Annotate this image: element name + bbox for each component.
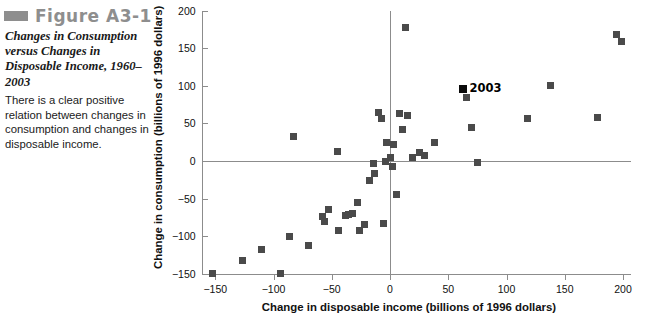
y-tick bbox=[202, 236, 208, 237]
data-point bbox=[258, 246, 265, 253]
x-tick-label: 150 bbox=[545, 283, 585, 295]
data-point bbox=[321, 218, 328, 225]
point-annotation-label: 2003 bbox=[469, 81, 501, 95]
data-point bbox=[474, 159, 481, 166]
x-tick bbox=[565, 274, 566, 280]
x-tick-label: −100 bbox=[254, 283, 294, 295]
caption-panel: Figure A3-1 Changes in Consumption versu… bbox=[0, 0, 158, 319]
x-tick-label: −150 bbox=[195, 283, 235, 295]
figure-marker-bar-icon bbox=[4, 11, 28, 21]
data-point bbox=[402, 24, 409, 31]
x-tick bbox=[332, 274, 333, 280]
y-tick bbox=[202, 199, 208, 200]
y-tick-label: 150 bbox=[162, 42, 196, 54]
data-point bbox=[366, 177, 373, 184]
data-point bbox=[524, 115, 531, 122]
x-axis-spine bbox=[202, 274, 631, 275]
data-point bbox=[618, 38, 625, 45]
data-point bbox=[325, 206, 332, 213]
data-point bbox=[594, 114, 601, 121]
y-tick-label: 0 bbox=[162, 155, 196, 167]
figure-header: Figure A3-1 bbox=[4, 6, 152, 26]
data-point bbox=[209, 270, 216, 277]
data-point-highlighted bbox=[459, 85, 467, 93]
zero-line-horizontal bbox=[202, 161, 631, 162]
data-point bbox=[349, 210, 356, 217]
y-tick bbox=[202, 123, 208, 124]
figure-description: There is a clear positive relation betwe… bbox=[5, 93, 156, 151]
data-point bbox=[387, 154, 394, 161]
data-point bbox=[421, 152, 428, 159]
x-tick bbox=[274, 274, 275, 280]
y-axis-spine bbox=[202, 11, 203, 274]
figure-title: Changes in Consumption versus Changes in… bbox=[5, 29, 155, 90]
data-point bbox=[396, 110, 403, 117]
data-point bbox=[383, 139, 390, 146]
y-tick bbox=[202, 11, 208, 12]
data-point bbox=[409, 154, 416, 161]
data-point bbox=[305, 242, 312, 249]
data-point bbox=[378, 115, 385, 122]
data-point bbox=[389, 163, 396, 170]
y-tick-label: −150 bbox=[162, 268, 196, 280]
data-point bbox=[361, 221, 368, 228]
y-tick-label: 100 bbox=[162, 80, 196, 92]
x-tick bbox=[448, 274, 449, 280]
y-axis-title: Change in consumption (billions of 1996 … bbox=[152, 5, 164, 268]
x-tick bbox=[390, 274, 391, 280]
y-tick-label: 200 bbox=[162, 5, 196, 17]
x-tick bbox=[623, 274, 624, 280]
y-tick bbox=[202, 48, 208, 49]
x-tick-label: 0 bbox=[370, 283, 410, 295]
y-tick bbox=[202, 161, 208, 162]
y-tick-label: 50 bbox=[162, 117, 196, 129]
data-point bbox=[380, 220, 387, 227]
data-point bbox=[393, 191, 400, 198]
x-tick-label: 100 bbox=[487, 283, 527, 295]
data-point bbox=[239, 257, 246, 264]
figure-root: Figure A3-1 Changes in Consumption versu… bbox=[0, 0, 660, 319]
data-point bbox=[547, 82, 554, 89]
y-tick bbox=[202, 86, 208, 87]
y-tick bbox=[202, 274, 208, 275]
data-point bbox=[290, 133, 297, 140]
data-point bbox=[335, 227, 342, 234]
data-point bbox=[399, 126, 406, 133]
x-axis-title: Change in disposable income (billions of… bbox=[158, 301, 660, 313]
x-tick bbox=[507, 274, 508, 280]
y-tick-label: −50 bbox=[162, 193, 196, 205]
x-tick-label: 50 bbox=[428, 283, 468, 295]
data-point bbox=[431, 139, 438, 146]
data-point bbox=[286, 233, 293, 240]
data-point bbox=[354, 199, 361, 206]
x-tick-label: 200 bbox=[603, 283, 643, 295]
data-point bbox=[370, 160, 377, 167]
data-point bbox=[277, 270, 284, 277]
chart-panel: −150−100−50050100150200−150−100−50050100… bbox=[158, 0, 660, 319]
data-point bbox=[390, 141, 397, 148]
data-point bbox=[404, 112, 411, 119]
y-tick-label: −100 bbox=[162, 230, 196, 242]
figure-number: Figure A3-1 bbox=[35, 6, 152, 26]
data-point bbox=[371, 170, 378, 177]
data-point bbox=[334, 148, 341, 155]
x-tick-label: −50 bbox=[312, 283, 352, 295]
scatter-plot: −150−100−50050100150200−150−100−50050100… bbox=[158, 0, 660, 319]
data-point bbox=[468, 124, 475, 131]
